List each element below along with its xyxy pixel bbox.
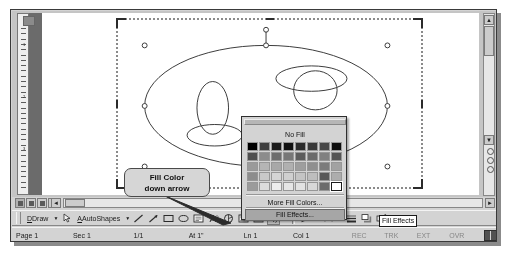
color-swatch-fill: [320, 163, 329, 170]
color-swatch-r2-c2[interactable]: [271, 162, 282, 171]
color-swatch-r4-c1[interactable]: [259, 182, 270, 191]
scroll-left-button[interactable]: ◄: [51, 198, 61, 208]
color-swatch-fill: [332, 163, 341, 170]
status-section: Sec 1: [69, 232, 130, 239]
draw-menu-caret-icon: ▼: [53, 215, 58, 221]
color-swatch-r3-c1[interactable]: [259, 172, 270, 181]
color-swatch-fill: [272, 183, 281, 190]
color-swatch-r1-c1[interactable]: [259, 152, 270, 161]
ruler-tick: [21, 161, 26, 162]
arrow-icon[interactable]: [147, 212, 160, 225]
color-swatch-r2-c7[interactable]: [331, 162, 342, 171]
color-swatch-r3-c6[interactable]: [319, 172, 330, 181]
no-fill-menu-item[interactable]: No Fill: [245, 128, 345, 141]
color-swatch-r3-c0[interactable]: [247, 172, 258, 181]
toolbar-grip[interactable]: [16, 212, 21, 224]
ruler-tick: [21, 76, 26, 77]
ruler-tick: [21, 39, 26, 40]
view-web-layout[interactable]: [26, 198, 36, 208]
color-swatch-r2-c1[interactable]: [259, 162, 270, 171]
color-swatch-r4-c5[interactable]: [307, 182, 318, 191]
scroll-up-button[interactable]: ▲: [484, 15, 494, 25]
color-swatch-r3-c2[interactable]: [271, 172, 282, 181]
view-normal[interactable]: [15, 198, 25, 208]
color-swatch-fill: [272, 143, 281, 150]
color-swatch-fill: [260, 183, 269, 190]
color-swatch-r1-c4[interactable]: [295, 152, 306, 161]
color-swatch-r1-c3[interactable]: [283, 152, 294, 161]
line-icon[interactable]: [132, 212, 145, 225]
color-swatch-r2-c3[interactable]: [283, 162, 294, 171]
color-swatch-r0-c6[interactable]: [319, 142, 330, 151]
draw-menu-button[interactable]: DDraw: [25, 215, 50, 222]
dropdown-drag-grip[interactable]: [244, 119, 346, 125]
status-rec-toggle[interactable]: REC: [348, 232, 380, 239]
previous-page-button[interactable]: [487, 148, 494, 155]
color-swatch-r2-c5[interactable]: [307, 162, 318, 171]
color-swatch-r0-c3[interactable]: [283, 142, 294, 151]
status-ovr-toggle[interactable]: OVR: [445, 232, 477, 239]
scroll-down-button[interactable]: ▼: [484, 135, 494, 145]
ruler-tick: [21, 139, 26, 140]
color-swatch-r4-c2[interactable]: [271, 182, 282, 191]
color-swatch-r0-c4[interactable]: [295, 142, 306, 151]
word-application-window: 123: [10, 9, 497, 242]
color-swatch-fill: [260, 153, 269, 160]
color-swatch-r0-c7[interactable]: [331, 142, 342, 151]
fill-color-dropdown[interactable]: No Fill More Fill Colors... Fill Effects…: [241, 116, 347, 220]
color-swatch-fill: [332, 143, 341, 150]
color-swatch-r4-c7[interactable]: [331, 182, 342, 191]
canvas-handle-right-middle[interactable]: [421, 100, 423, 108]
color-swatch-r1-c2[interactable]: [271, 152, 282, 161]
color-swatch-fill: [284, 143, 293, 150]
autoshapes-menu-button[interactable]: AAutoShapes: [75, 215, 122, 222]
color-swatch-grid[interactable]: [247, 142, 343, 191]
vertical-scrollbar[interactable]: ▲ ▼: [483, 13, 495, 196]
spelling-grammar-status-icon[interactable]: [484, 230, 497, 241]
color-swatch-r1-c0[interactable]: [247, 152, 258, 161]
color-swatch-r2-c4[interactable]: [295, 162, 306, 171]
status-trk-toggle[interactable]: TRK: [380, 232, 412, 239]
fill-effects-menu-item[interactable]: Fill Effects...: [245, 209, 345, 221]
color-swatch-r4-c3[interactable]: [283, 182, 294, 191]
ruler-mark-2: 2: [19, 94, 29, 99]
color-swatch-r2-c0[interactable]: [247, 162, 258, 171]
vertical-scroll-thumb[interactable]: [484, 26, 494, 56]
vertical-ruler[interactable]: 123: [17, 13, 29, 195]
ruler-tick: [21, 55, 26, 56]
color-swatch-r0-c2[interactable]: [271, 142, 282, 151]
status-ext-toggle[interactable]: EXT: [413, 232, 445, 239]
color-swatch-r3-c3[interactable]: [283, 172, 294, 181]
color-swatch-fill: [284, 183, 293, 190]
ruler-mark-1: 1: [19, 42, 29, 47]
scroll-right-button[interactable]: ►: [485, 198, 495, 208]
color-swatch-r4-c6[interactable]: [319, 182, 330, 191]
color-swatch-r3-c4[interactable]: [295, 172, 306, 181]
color-swatch-r1-c6[interactable]: [319, 152, 330, 161]
color-swatch-r0-c5[interactable]: [307, 142, 318, 151]
color-swatch-fill: [320, 143, 329, 150]
color-swatch-fill: [296, 153, 305, 160]
ruler-tick: [21, 182, 26, 183]
color-swatch-r1-c7[interactable]: [331, 152, 342, 161]
shadow-style-icon[interactable]: [360, 212, 373, 225]
view-print-layout[interactable]: [37, 198, 47, 208]
color-swatch-r2-c6[interactable]: [319, 162, 330, 171]
fill-effects-label: Fill Effects...: [276, 211, 314, 218]
select-browse-object-button[interactable]: [487, 157, 494, 164]
color-swatch-r4-c4[interactable]: [295, 182, 306, 191]
more-fill-colors-label: More Fill Colors...: [268, 199, 323, 206]
color-swatch-r0-c1[interactable]: [259, 142, 270, 151]
color-swatch-r3-c7[interactable]: [331, 172, 342, 181]
ruler-tick: [21, 60, 26, 61]
color-swatch-r0-c0[interactable]: [247, 142, 258, 151]
horizontal-scroll-thumb[interactable]: [65, 199, 85, 207]
color-swatch-r1-c5[interactable]: [307, 152, 318, 161]
ruler-tick: [21, 81, 26, 82]
ruler-tick: [21, 129, 26, 130]
screenshot-root: 123: [0, 0, 511, 255]
color-swatch-r3-c5[interactable]: [307, 172, 318, 181]
select-objects-icon[interactable]: [60, 212, 73, 225]
color-swatch-r4-c0[interactable]: [247, 182, 258, 191]
next-page-button[interactable]: [487, 166, 494, 173]
